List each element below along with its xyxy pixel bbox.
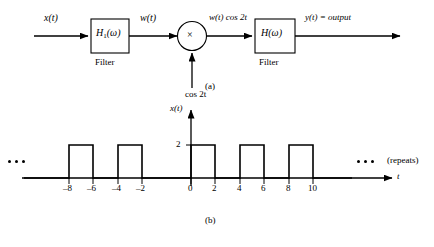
- y-axis-label: x(t): [170, 104, 183, 113]
- x-tick-label-neg8: –8: [63, 184, 72, 193]
- signal-plot-graphics: [22, 110, 392, 186]
- left-ellipsis: [8, 160, 25, 163]
- x-tick-label-0: 0: [188, 184, 193, 193]
- output-signal-label: y(t) = output: [305, 13, 351, 22]
- product-signal-label: w(t) cos 2t: [209, 13, 247, 22]
- block-diagram-graphics: [34, 19, 400, 88]
- output-text: y(t) = output: [305, 12, 351, 22]
- x-tick-label-8: 8: [286, 184, 291, 193]
- figure-container: x(t) H1(ω) Filter w(t) × cos 2t w(t) cos…: [0, 0, 434, 247]
- input-signal-label: x(t): [44, 13, 58, 23]
- x-tick-label-4: 4: [237, 184, 242, 193]
- filter1-omega-arg: (ω): [107, 27, 121, 38]
- multiplier-symbol: ×: [187, 30, 193, 40]
- x-tick-label-neg4: –4: [112, 184, 121, 193]
- x-tick-label-10: 10: [308, 184, 317, 193]
- filter1-caption: Filter: [95, 58, 115, 67]
- amplitude-label: 2: [176, 140, 181, 149]
- carrier-text: cos 2t: [185, 89, 206, 99]
- filter1-transfer-function-label: H1(ω): [96, 28, 120, 40]
- x-tick-label-6: 6: [261, 184, 266, 193]
- carrier-signal-label: cos 2t: [185, 90, 206, 99]
- filter2-omega-arg: (ω): [268, 27, 282, 38]
- intermediate-signal-label: w(t): [140, 13, 156, 23]
- right-ellipsis: [357, 160, 374, 163]
- filter2-transfer-function-label: H(ω): [261, 28, 282, 38]
- x-tick-label-2: 2: [212, 184, 217, 193]
- x-tick-label-neg6: –6: [87, 184, 96, 193]
- repeats-label: (repeats): [387, 156, 418, 165]
- x-axis-label: t: [397, 172, 400, 181]
- filter2-caption: Filter: [259, 58, 279, 67]
- panel-a-caption: (a): [205, 82, 215, 91]
- figure-svg: [0, 0, 434, 247]
- pulse-train-waveform: [24, 145, 352, 178]
- x-tick-label-neg2: –2: [136, 184, 145, 193]
- panel-b-caption: (b): [205, 216, 216, 225]
